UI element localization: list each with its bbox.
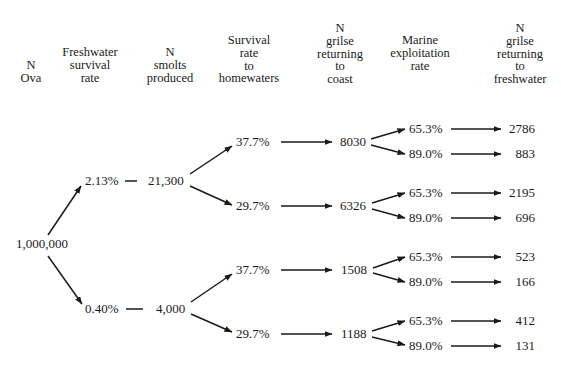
marine-rate: 89.0% — [409, 275, 443, 289]
arrow-icon — [372, 209, 405, 218]
home-rate: 29.7% — [236, 199, 270, 213]
smolts-high: 21,300 — [148, 174, 184, 188]
marine-rate: 65.3% — [409, 186, 443, 200]
arrow-icon — [371, 145, 405, 154]
home-rate: 37.7% — [236, 135, 270, 149]
freshwater-count: 166 — [500, 275, 535, 289]
arrow-icon — [372, 193, 405, 203]
marine-rate: 65.3% — [409, 122, 443, 136]
coast-count: 1508 — [341, 263, 367, 277]
freshwater-count: 131 — [500, 339, 535, 353]
freshwater-count: 696 — [500, 211, 535, 225]
arrow-icon — [48, 256, 82, 304]
marine-rate: 89.0% — [409, 147, 443, 161]
arrow-icon — [372, 321, 405, 331]
root-ova-count: 1,000,000 — [16, 237, 68, 251]
home-rate: 29.7% — [236, 327, 270, 341]
fw-rate-high: 2.13% — [85, 174, 119, 188]
fw-rate-low: 0.40% — [85, 302, 119, 316]
arrow-icon — [373, 273, 405, 282]
marine-rate: 65.3% — [409, 250, 443, 264]
arrow-icon — [191, 274, 232, 302]
coast-count: 8030 — [340, 135, 366, 149]
arrow-icon — [48, 186, 81, 235]
arrow-icon — [373, 257, 405, 268]
marine-rate: 89.0% — [409, 339, 443, 353]
freshwater-count: 412 — [500, 314, 535, 328]
coast-count: 1188 — [341, 327, 367, 341]
arrow-icon — [372, 337, 405, 345]
freshwater-count: 523 — [500, 250, 535, 264]
smolts-low: 4,000 — [156, 302, 185, 316]
arrow-icon — [190, 146, 232, 174]
arrow-icon — [191, 314, 232, 332]
arrow-icon — [371, 129, 405, 139]
coast-count: 6326 — [340, 199, 366, 213]
arrow-icon — [190, 186, 232, 205]
freshwater-count: 2195 — [500, 186, 535, 200]
freshwater-count: 883 — [500, 147, 535, 161]
freshwater-count: 2786 — [500, 122, 535, 136]
marine-rate: 65.3% — [409, 314, 443, 328]
marine-rate: 89.0% — [409, 211, 443, 225]
home-rate: 37.7% — [236, 263, 270, 277]
